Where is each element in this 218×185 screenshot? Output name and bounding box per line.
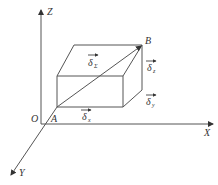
origin-label: O (31, 113, 38, 124)
z-axis-label: Z (47, 6, 53, 17)
svg-text:δ: δ (82, 111, 87, 122)
vector-diagram: Z X Y O A B δ Σ δ z δ y δ x (0, 0, 218, 185)
vector-label-x: δ x (81, 110, 91, 123)
vector-label-z: δ z (146, 61, 156, 74)
x-axis-label: X (203, 127, 211, 138)
vector-label-sum: δ Σ (88, 55, 98, 69)
y-axis-label: Y (19, 167, 26, 178)
point-a-label: A (50, 113, 58, 124)
svg-text:δ: δ (146, 96, 151, 107)
point-b-label: B (145, 35, 151, 46)
svg-text:δ: δ (88, 57, 93, 68)
svg-text:x: x (87, 117, 91, 123)
svg-text:Σ: Σ (93, 63, 98, 69)
svg-text:y: y (151, 102, 155, 108)
vector-label-y: δ y (146, 95, 156, 108)
svg-text:δ: δ (147, 62, 152, 73)
svg-text:z: z (152, 68, 156, 74)
